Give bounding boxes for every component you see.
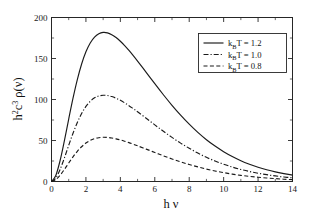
y-tick-label: 150 [34,54,48,64]
y-tick-label: 50 [39,136,49,146]
x-tick-label: 2 [84,184,89,194]
legend: kBT = 1.2kBT = 1.0kBT = 0.8 [199,34,287,73]
y-tick-labels: 050100150200 [34,13,48,187]
planck-distribution-chart: 02468101214 050100150200 h ν h2c3 ρ(ν) k… [0,0,312,219]
x-tick-label: 14 [288,184,298,194]
x-tick-label: 12 [254,184,263,194]
x-tick-label: 8 [187,184,192,194]
x-tick-label: 6 [153,184,158,194]
y-tick-label: 200 [34,13,48,23]
y-axis-title: h2c3 ρ(ν) [11,77,25,120]
curve-series-1 [52,95,293,181]
x-axis-title: h ν [163,197,178,211]
x-tick-label: 4 [118,184,123,194]
x-tick-label: 10 [219,184,229,194]
x-axis-title-text: h ν [163,197,178,211]
x-tick-label: 0 [49,184,54,194]
curve-series-2 [52,137,293,181]
y-tick-label: 100 [34,95,48,105]
y-axis-title-text: h2c3 ρ(ν) [11,77,25,120]
figure-container: 02468101214 050100150200 h ν h2c3 ρ(ν) k… [0,0,312,219]
y-tick-label: 0 [43,177,48,187]
x-tick-labels: 02468101214 [49,184,297,194]
